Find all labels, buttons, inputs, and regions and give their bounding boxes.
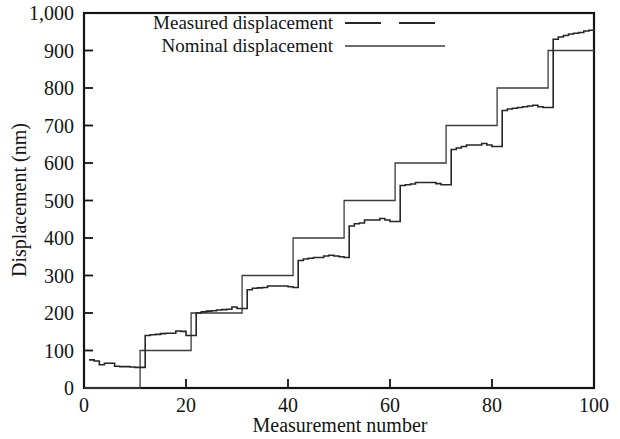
y-axis-tick-label: 700 bbox=[44, 115, 74, 137]
y-axis-tick-label: 900 bbox=[44, 40, 74, 62]
x-axis-title: Measurement number bbox=[253, 414, 428, 436]
x-axis-tick-label: 20 bbox=[176, 394, 196, 416]
figure-background bbox=[0, 0, 620, 439]
y-axis-tick-label: 0 bbox=[64, 377, 74, 399]
legend-label-nominal: Nominal displacement bbox=[162, 35, 334, 56]
y-axis-tick-label: 1,000 bbox=[29, 2, 74, 24]
legend-label-measured: Measured displacement bbox=[153, 12, 334, 33]
x-axis-tick-label: 40 bbox=[278, 394, 298, 416]
x-axis-tick-label: 60 bbox=[380, 394, 400, 416]
x-axis-tick-label: 100 bbox=[579, 394, 609, 416]
y-axis-tick-label: 200 bbox=[44, 302, 74, 324]
y-axis-title: Displacement (nm) bbox=[8, 123, 31, 277]
y-axis-tick-label: 300 bbox=[44, 265, 74, 287]
y-axis-tick-label: 500 bbox=[44, 190, 74, 212]
y-axis-tick-label: 800 bbox=[44, 77, 74, 99]
y-axis-tick-label: 600 bbox=[44, 152, 74, 174]
chart-figure: 01002003004005006007008009001,000 020406… bbox=[0, 0, 620, 439]
y-axis-tick-label: 100 bbox=[44, 340, 74, 362]
x-axis-tick-label: 80 bbox=[482, 394, 502, 416]
chart-canvas: 01002003004005006007008009001,000 020406… bbox=[0, 0, 620, 439]
y-axis-tick-label: 400 bbox=[44, 227, 74, 249]
x-axis-tick-label: 0 bbox=[79, 394, 89, 416]
